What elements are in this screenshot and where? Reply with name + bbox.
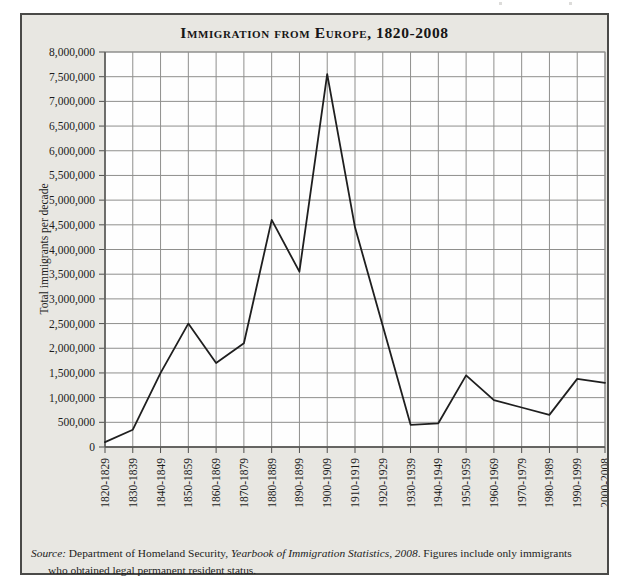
- x-tick-label: 1940-1949: [432, 458, 444, 508]
- immigration-figure: Immigration from Europe, 1820-2008 0500,…: [20, 13, 609, 575]
- y-tick-label: 1,000,000: [49, 392, 95, 405]
- source-work-title: Yearbook of Immigration Statistics, 2008: [231, 547, 418, 559]
- x-tick-label: 1880-1889: [266, 458, 278, 508]
- x-tick-label: 1830-1839: [127, 458, 139, 508]
- x-tick-label: 1910-1919: [349, 458, 361, 508]
- x-tick-label: 1840-1849: [155, 458, 167, 508]
- y-tick-label: 2,000,000: [49, 342, 95, 355]
- x-tick-label: 1930-1939: [405, 458, 417, 508]
- y-tick-label: 2,500,000: [49, 318, 95, 331]
- y-tick-label: 4,500,000: [49, 219, 95, 232]
- y-tick-label: 5,000,000: [49, 194, 95, 207]
- x-tick-label: 1960-1969: [488, 458, 500, 508]
- x-tick-label: 1900-1909: [321, 458, 333, 508]
- x-tick-label: 1950-1959: [460, 458, 472, 508]
- y-tick-label: 6,500,000: [49, 120, 95, 133]
- y-tick-label: 5,500,000: [49, 169, 95, 182]
- x-tick-label: 1870-1879: [238, 458, 250, 508]
- source-label: Source:: [31, 547, 66, 559]
- y-tick-label: 0: [89, 441, 95, 453]
- y-axis-title: Total immigrants per decade: [38, 169, 50, 329]
- x-tick-label: 1860-1869: [210, 458, 222, 508]
- source-text-1: Department of Homeland Security,: [66, 547, 231, 559]
- source-note: Source: Department of Homeland Security,…: [31, 545, 591, 579]
- y-tick-label: 3,500,000: [49, 268, 95, 281]
- y-tick-label: 1,500,000: [49, 367, 95, 380]
- y-tick-label: 7,500,000: [49, 71, 95, 84]
- x-tick-label: 1850-1859: [182, 458, 194, 508]
- y-tick-label: 8,000,000: [49, 46, 95, 59]
- x-tick-label: 1890-1899: [293, 458, 305, 508]
- x-tick-label: 1970-1979: [516, 458, 528, 508]
- x-tick-label: 2000-2008: [599, 458, 607, 508]
- y-tick-label: 4,000,000: [49, 244, 95, 257]
- y-tick-label: 500,000: [58, 416, 96, 429]
- y-tick-label: 7,000,000: [49, 95, 95, 108]
- line-chart-svg: 0500,0001,000,0001,500,0002,000,0002,500…: [22, 15, 607, 543]
- page-crop-artifact: [465, 2, 575, 5]
- x-tick-label: 1990-1999: [571, 458, 583, 508]
- y-tick-label: 3,000,000: [49, 293, 95, 306]
- x-tick-label: 1920-1929: [377, 458, 389, 508]
- x-tick-label: 1980-1989: [543, 458, 555, 508]
- x-tick-label: 1820-1829: [99, 458, 111, 508]
- y-tick-label: 6,000,000: [49, 145, 95, 158]
